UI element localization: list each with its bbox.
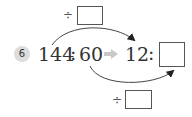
top-divisor-answer-box[interactable] bbox=[77, 6, 103, 25]
left-ratio-second: 60 bbox=[79, 44, 103, 64]
left-ratio-first: 144 bbox=[38, 44, 74, 64]
problem-number-badge: 6 bbox=[14, 46, 30, 62]
top-divide-sign: ÷ bbox=[63, 8, 73, 22]
left-ratio-colon: : bbox=[70, 43, 76, 63]
bottom-curved-arrow bbox=[90, 66, 173, 82]
right-ratio-answer-box[interactable] bbox=[159, 42, 185, 67]
right-ratio-first: 12 bbox=[125, 44, 149, 64]
bottom-divide-sign: ÷ bbox=[112, 93, 122, 107]
bottom-divisor-answer-box[interactable] bbox=[125, 90, 152, 109]
right-ratio-colon: : bbox=[148, 43, 154, 63]
gray-right-arrow bbox=[104, 49, 118, 59]
